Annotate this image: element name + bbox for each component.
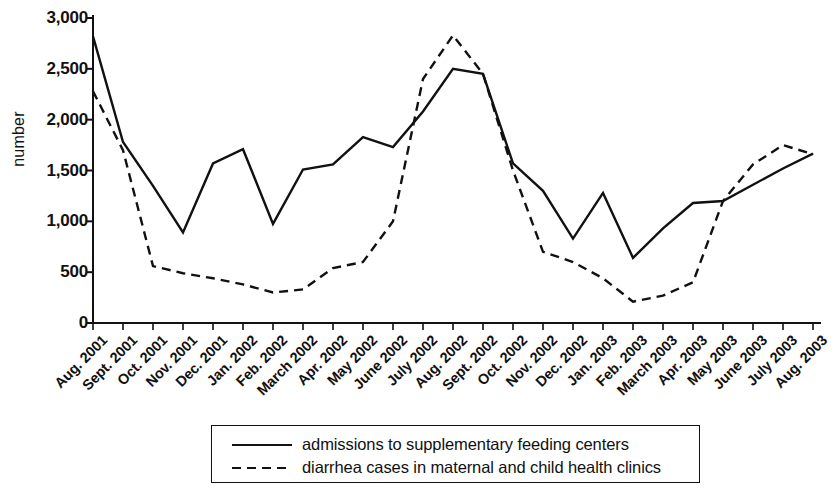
- y-tick-label: 3,000: [16, 8, 88, 28]
- solid-line-swatch: [230, 439, 294, 451]
- legend-key-dashed-line: [230, 462, 302, 474]
- legend-item-diarrhea: diarrhea cases in maternal and child hea…: [230, 456, 699, 479]
- legend-label-diarrhea: diarrhea cases in maternal and child hea…: [302, 458, 661, 477]
- legend-label-admissions: admissions to supplementary feeding cent…: [302, 435, 629, 454]
- y-axis-tick-labels: 05001,0001,5002,0002,5003,000: [10, 0, 88, 340]
- y-tick-label: 1,000: [16, 211, 88, 231]
- y-tick-label: 1,500: [16, 161, 88, 181]
- x-axis-tick-labels: Aug. 2001Sept. 2001Oct. 2001Nov. 2001Dec…: [0, 326, 838, 426]
- legend-item-admissions: admissions to supplementary feeding cent…: [230, 433, 699, 456]
- chart-canvas: [93, 8, 815, 328]
- plot-area: [93, 8, 815, 328]
- chart-figure: number 05001,0001,5002,0002,5003,000 Aug…: [0, 0, 838, 489]
- y-tick-label: 2,000: [16, 110, 88, 130]
- chart-legend: admissions to supplementary feeding cent…: [211, 425, 700, 483]
- legend-key-solid-line: [230, 439, 302, 451]
- y-tick-label: 500: [16, 262, 88, 282]
- dashed-line-swatch: [230, 462, 294, 474]
- y-tick-label: 2,500: [16, 59, 88, 79]
